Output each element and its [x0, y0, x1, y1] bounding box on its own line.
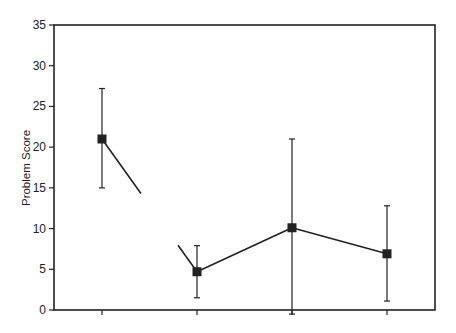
y-tick-label: 0	[39, 303, 46, 317]
data-markers	[98, 135, 392, 277]
y-tick-label: 5	[39, 262, 46, 276]
square-marker	[383, 249, 392, 258]
square-marker	[98, 135, 107, 144]
y-tick-label: 30	[33, 59, 47, 73]
square-marker	[288, 223, 297, 232]
error-bars	[99, 89, 390, 315]
y-axis-title: Problem Score	[20, 130, 32, 206]
series-line	[102, 139, 387, 272]
y-tick-label: 25	[33, 99, 47, 113]
line-segment	[102, 139, 141, 193]
y-tick-label: 20	[33, 140, 47, 154]
chart: 05101520253035 Problem Score	[0, 0, 456, 333]
square-marker	[193, 267, 202, 276]
line-segment	[197, 228, 292, 272]
y-tick-label: 35	[33, 18, 47, 32]
line-segment	[292, 228, 387, 254]
y-axis-ticks: 05101520253035	[33, 18, 54, 317]
plot-border	[54, 25, 435, 310]
y-tick-label: 10	[33, 222, 47, 236]
y-tick-label: 15	[33, 181, 47, 195]
plot-frame	[54, 25, 435, 310]
